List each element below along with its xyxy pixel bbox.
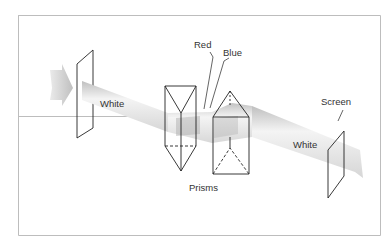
incoming-light-arrow bbox=[50, 64, 73, 106]
prism-diagram: White Red Blue Screen White Prisms bbox=[0, 0, 391, 249]
label-screen: Screen bbox=[321, 96, 351, 107]
blue-leader-line bbox=[210, 58, 229, 108]
red-leader-line bbox=[204, 52, 213, 109]
label-white-in: White bbox=[100, 98, 124, 109]
screen-leader-line bbox=[338, 110, 343, 121]
white-beam-in bbox=[82, 81, 168, 132]
label-white-out: White bbox=[293, 139, 317, 150]
label-prisms: Prisms bbox=[189, 182, 218, 193]
label-red: Red bbox=[194, 39, 211, 50]
label-blue: Blue bbox=[223, 47, 242, 58]
